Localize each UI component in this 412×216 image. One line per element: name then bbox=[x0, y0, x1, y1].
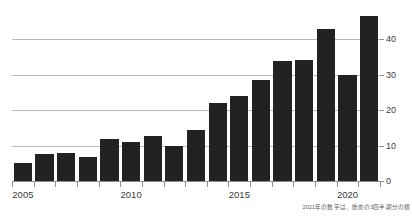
bar bbox=[57, 153, 75, 181]
x-axis-tick-mark bbox=[142, 182, 143, 187]
x-axis-tick-mark bbox=[380, 182, 381, 187]
x-axis-tick-label: 2005 bbox=[12, 190, 33, 200]
x-axis-tick-mark bbox=[99, 182, 100, 187]
x-axis-tick-mark bbox=[207, 182, 208, 187]
y-axis-tick-label: 10 bbox=[386, 142, 396, 151]
x-axis-tick-mark bbox=[293, 182, 294, 187]
x-axis-tick-mark bbox=[34, 182, 35, 187]
x-axis-tick-mark bbox=[77, 182, 78, 187]
bar bbox=[35, 154, 53, 181]
y-axis-tick-mark bbox=[380, 110, 384, 111]
plot-area: 010203040 2005201020152020 bbox=[0, 0, 380, 182]
bar bbox=[165, 146, 183, 181]
bar bbox=[338, 75, 356, 181]
x-axis-tick-mark bbox=[272, 182, 273, 187]
x-axis-tick-mark bbox=[358, 182, 359, 187]
bars-group bbox=[0, 0, 380, 182]
y-axis-tick-mark bbox=[380, 146, 384, 147]
x-axis-tick-mark bbox=[228, 182, 229, 187]
bar-chart: 010203040 2005201020152020 2021年の数字は、始めの… bbox=[0, 0, 412, 216]
bar bbox=[252, 80, 270, 181]
y-axis-tick-label: 0 bbox=[386, 177, 391, 186]
bar bbox=[295, 60, 313, 181]
bar bbox=[209, 103, 227, 181]
x-axis-line bbox=[12, 181, 380, 182]
x-axis-tick-mark bbox=[164, 182, 165, 187]
y-axis-tick-label: 30 bbox=[386, 71, 396, 80]
y-axis-tick-mark bbox=[380, 75, 384, 76]
y-axis-tick-label: 20 bbox=[386, 106, 396, 115]
x-axis-tick-mark bbox=[55, 182, 56, 187]
bar bbox=[230, 96, 248, 181]
x-axis-tick-mark bbox=[337, 182, 338, 187]
x-axis-tick-mark bbox=[185, 182, 186, 187]
x-axis-tick-mark bbox=[120, 182, 121, 187]
bar bbox=[14, 163, 32, 181]
bar bbox=[79, 157, 97, 181]
x-axis-tick-mark bbox=[315, 182, 316, 187]
bar bbox=[100, 139, 118, 182]
bar bbox=[317, 29, 335, 181]
bar bbox=[273, 61, 291, 181]
bar bbox=[144, 136, 162, 181]
bar bbox=[360, 16, 378, 181]
bar bbox=[122, 142, 140, 181]
x-axis-tick-mark bbox=[12, 182, 13, 187]
chart-footnote: 2021年の数字は、始めの3四半期分の額 bbox=[302, 203, 410, 211]
y-axis-tick-label: 40 bbox=[386, 35, 396, 44]
bar bbox=[187, 130, 205, 181]
x-axis-tick-label: 2020 bbox=[337, 190, 358, 200]
x-axis-tick-mark bbox=[250, 182, 251, 187]
x-axis-tick-label: 2010 bbox=[121, 190, 142, 200]
x-axis-tick-label: 2015 bbox=[229, 190, 250, 200]
y-axis-tick-mark bbox=[380, 39, 384, 40]
